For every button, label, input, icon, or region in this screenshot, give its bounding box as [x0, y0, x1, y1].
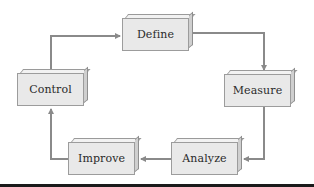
box-side-face	[135, 136, 139, 172]
arrow-improve-to-control	[51, 109, 68, 159]
node-label: Control	[29, 83, 72, 96]
box-front-face: Control	[17, 73, 84, 106]
box-front-face: Define	[122, 18, 189, 51]
node-control: Control	[17, 73, 84, 106]
arrow-define-to-measure	[193, 33, 264, 70]
node-label: Improve	[78, 152, 125, 165]
bottom-divider-rule	[0, 184, 314, 187]
box-front-face: Improve	[68, 142, 135, 175]
box-side-face	[291, 68, 295, 104]
node-improve: Improve	[68, 142, 135, 175]
dmaic-cycle-diagram: Define Measure Analyze Improve Control	[0, 0, 314, 187]
node-label: Analyze	[182, 152, 226, 165]
node-label: Define	[137, 28, 174, 41]
box-side-face	[189, 12, 193, 48]
arrow-control-to-define	[51, 36, 120, 70]
box-front-face: Analyze	[171, 142, 238, 175]
box-side-face	[238, 136, 242, 172]
node-label: Measure	[233, 84, 283, 97]
node-define: Define	[122, 18, 189, 51]
node-measure: Measure	[224, 74, 291, 107]
box-front-face: Measure	[224, 74, 291, 107]
node-analyze: Analyze	[171, 142, 238, 175]
arrow-measure-to-analyze	[244, 107, 264, 159]
box-side-face	[84, 67, 88, 103]
